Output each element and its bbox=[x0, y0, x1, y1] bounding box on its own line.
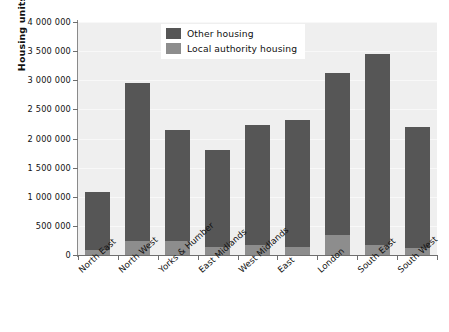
chart-legend: Other housing Local authority housing bbox=[161, 24, 305, 59]
bar-east bbox=[285, 120, 310, 255]
x-axis-tick-mark bbox=[198, 255, 199, 260]
x-axis-tick-mark bbox=[437, 255, 438, 260]
y-axis-tick-mark bbox=[73, 168, 78, 169]
legend-label-local-authority-housing: Local authority housing bbox=[187, 43, 297, 54]
y-axis-tick-label: 2 500 000 bbox=[5, 104, 71, 114]
x-axis-tick-mark bbox=[277, 255, 278, 260]
legend-swatch-local-authority-housing bbox=[166, 43, 181, 54]
y-axis-tick-label: 0 bbox=[5, 250, 71, 260]
x-axis-tick-mark bbox=[357, 255, 358, 260]
x-axis-tick-mark bbox=[118, 255, 119, 260]
x-axis-tick-mark bbox=[238, 255, 239, 260]
y-axis-tick-mark bbox=[73, 226, 78, 227]
legend-item-local-authority-housing: Local authority housing bbox=[166, 43, 297, 54]
bar-segment-other-housing bbox=[125, 83, 150, 241]
y-axis-tick-mark bbox=[73, 51, 78, 52]
bar-segment-other-housing bbox=[285, 120, 310, 247]
bar-south-east bbox=[365, 54, 390, 255]
x-axis-tick-mark bbox=[317, 255, 318, 260]
y-axis-tick-mark bbox=[73, 22, 78, 23]
y-axis-tick-mark bbox=[73, 109, 78, 110]
legend-swatch-other-housing bbox=[166, 28, 181, 39]
bar-north-west bbox=[125, 83, 150, 255]
y-axis-tick-label: 1 500 000 bbox=[5, 163, 71, 173]
x-axis-tick-mark bbox=[397, 255, 398, 260]
bar-london bbox=[325, 73, 350, 255]
y-axis-tick-mark bbox=[73, 197, 78, 198]
gridline bbox=[78, 22, 437, 23]
y-axis-tick-label: 3 000 000 bbox=[5, 75, 71, 85]
y-axis-tick-label: 500 000 bbox=[5, 221, 71, 231]
x-axis-tick-mark bbox=[78, 255, 79, 260]
y-axis-tick-label: 3 500 000 bbox=[5, 46, 71, 56]
bar-segment-other-housing bbox=[325, 73, 350, 235]
bar-yorks-humber bbox=[165, 130, 190, 255]
bar-segment-other-housing bbox=[245, 125, 270, 245]
x-axis-tick-mark bbox=[158, 255, 159, 260]
x-axis-tick-label: East bbox=[276, 255, 297, 275]
y-axis-tick-mark bbox=[73, 80, 78, 81]
y-axis-tick-mark bbox=[73, 139, 78, 140]
legend-item-other-housing: Other housing bbox=[166, 28, 297, 39]
bar-segment-other-housing bbox=[365, 54, 390, 245]
y-axis-tick-label: 2 000 000 bbox=[5, 134, 71, 144]
legend-label-other-housing: Other housing bbox=[187, 28, 254, 39]
bar-west-midlands bbox=[245, 125, 270, 255]
y-axis-tick-label: 1 000 000 bbox=[5, 192, 71, 202]
y-axis-tick-label: 4 000 000 bbox=[5, 17, 71, 27]
bar-south-west bbox=[405, 127, 430, 255]
bar-segment-other-housing bbox=[165, 130, 190, 241]
bar-segment-other-housing bbox=[405, 127, 430, 248]
housing-units-bar-chart: Housing units 0500 0001 000 0001 500 000… bbox=[0, 0, 449, 332]
